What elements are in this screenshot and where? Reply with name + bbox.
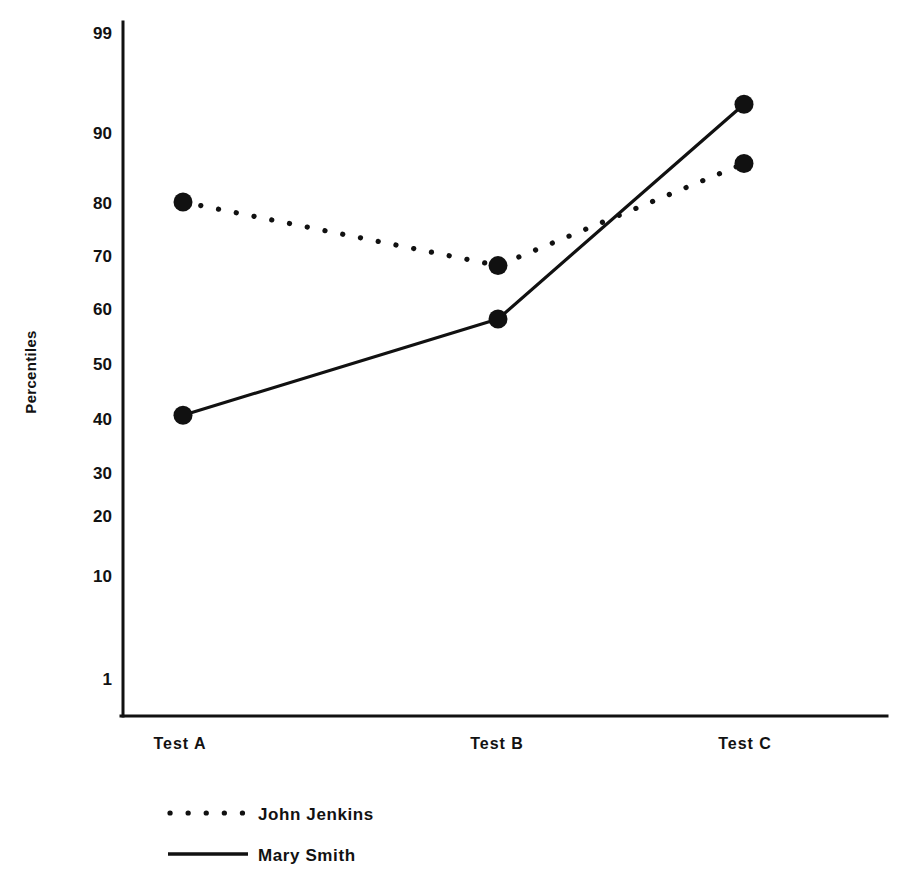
legend-label-john-jenkins: John Jenkins [258,805,374,824]
data-point-john-jenkins-test-a [174,193,193,212]
y-tick-label-60: 60 [93,300,112,319]
series-line-mary-smith [183,104,744,415]
y-tick-label-50: 50 [93,355,112,374]
y-tick-label-99: 99 [93,24,112,43]
chart-canvas: Percentiles 99 90 80 70 60 50 40 30 20 1… [0,0,906,888]
data-point-mary-smith-test-a [174,406,193,425]
percentile-line-chart: Percentiles 99 90 80 70 60 50 40 30 20 1… [0,0,906,888]
series-layer [174,95,754,425]
y-tick-label-70: 70 [93,247,112,266]
legend: John Jenkins Mary Smith [168,805,374,865]
y-axis-title: Percentiles [22,330,39,413]
y-tick-label-20: 20 [93,507,112,526]
y-tick-label-40: 40 [93,410,112,429]
legend-label-mary-smith: Mary Smith [258,846,356,865]
data-point-john-jenkins-test-b [489,256,508,275]
data-point-john-jenkins-test-c [735,154,754,173]
y-tick-label-80: 80 [93,194,112,213]
x-tick-label-test-a: Test A [153,735,206,752]
data-point-mary-smith-test-b [489,310,508,329]
y-tick-label-90: 90 [93,124,112,143]
y-tick-label-30: 30 [93,464,112,483]
y-tick-label-1: 1 [103,670,112,689]
data-point-mary-smith-test-c [735,95,754,114]
y-tick-label-10: 10 [93,567,112,586]
x-tick-label-test-c: Test C [718,735,772,752]
x-tick-label-test-b: Test B [470,735,524,752]
